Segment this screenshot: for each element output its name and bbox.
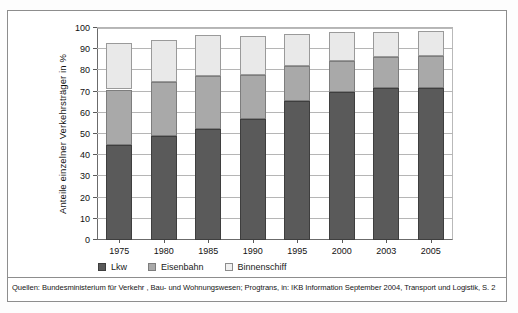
- y-tick-mark: [93, 91, 97, 92]
- plot-area: 0102030405060708090100 19751980198519901…: [97, 28, 453, 240]
- source-note: Quellen: Bundesministerium für Verkehr ,…: [12, 283, 495, 292]
- bar-segment-lkw: [240, 119, 266, 240]
- bar-segment-binnenschiff: [240, 36, 266, 74]
- bar-segment-binnenschiff: [284, 34, 310, 66]
- bar-group: 1995: [284, 28, 310, 240]
- bar-segment-binnenschiff: [418, 31, 444, 55]
- y-tick-mark: [93, 197, 97, 198]
- x-tick-mark: [164, 240, 165, 243]
- bar-segment-binnenschiff: [151, 40, 177, 82]
- y-tick-label: 90: [80, 44, 90, 54]
- bar-group: 1990: [240, 28, 266, 240]
- bar-segment-lkw: [329, 92, 355, 240]
- y-tick-mark: [93, 218, 97, 219]
- y-tick-mark: [93, 175, 97, 176]
- bar-segment-binnenschiff: [373, 32, 399, 56]
- bar-group: 1975: [106, 28, 132, 240]
- y-tick-mark: [93, 69, 97, 70]
- y-tick-mark: [93, 133, 97, 134]
- x-tick-label: 2003: [376, 246, 396, 256]
- bar-segment-lkw: [195, 129, 221, 240]
- source-divider: [8, 277, 506, 278]
- bar-segment-eisenbahn: [284, 66, 310, 101]
- y-tick-label: 40: [80, 150, 90, 160]
- y-tick-label: 80: [80, 65, 90, 75]
- x-tick-label: 2005: [421, 246, 441, 256]
- bar-segment-lkw: [373, 88, 399, 240]
- y-tick-label: 0: [85, 235, 90, 245]
- legend-item-lkw: Lkw: [98, 262, 127, 272]
- y-tick-mark: [93, 48, 97, 49]
- bar-segment-eisenbahn: [240, 75, 266, 120]
- x-tick-label: 1990: [243, 246, 263, 256]
- y-tick-label: 100: [75, 23, 90, 33]
- eisenbahn-swatch: [148, 263, 156, 271]
- lkw-swatch: [98, 263, 106, 271]
- bar-segment-binnenschiff: [195, 35, 221, 75]
- bar-segment-eisenbahn: [151, 82, 177, 136]
- bar-segment-lkw: [106, 145, 132, 240]
- x-tick-label: 1985: [198, 246, 218, 256]
- y-tick-mark: [93, 27, 97, 28]
- x-tick-mark: [297, 240, 298, 243]
- y-tick-mark: [93, 154, 97, 155]
- bar-segment-binnenschiff: [329, 32, 355, 61]
- bar-segment-lkw: [284, 101, 310, 240]
- bar-segment-eisenbahn: [329, 61, 355, 92]
- chart-legend: LkwEisenbahnBinnenschiff: [98, 262, 286, 272]
- x-tick-mark: [208, 240, 209, 243]
- y-tick-label: 20: [80, 193, 90, 203]
- legend-item-eisenbahn: Eisenbahn: [148, 262, 204, 272]
- binnenschiff-swatch: [225, 263, 233, 271]
- x-tick-mark: [253, 240, 254, 243]
- x-tick-label: 1995: [287, 246, 307, 256]
- x-tick-label: 1975: [109, 246, 129, 256]
- legend-label: Eisenbahn: [161, 262, 204, 272]
- bar-segment-eisenbahn: [418, 56, 444, 89]
- y-tick-mark: [93, 112, 97, 113]
- x-tick-mark: [386, 240, 387, 243]
- x-tick-label: 2000: [332, 246, 352, 256]
- y-tick-mark: [93, 239, 97, 240]
- bar-segment-eisenbahn: [373, 57, 399, 89]
- x-tick-mark: [431, 240, 432, 243]
- y-axis-title: Anteile einzelner Verkehrsträger in %: [56, 28, 70, 240]
- bar-group: 1980: [151, 28, 177, 240]
- figure-container: Anteile einzelner Verkehrsträger in % 01…: [0, 0, 518, 313]
- legend-label: Binnenschiff: [238, 262, 287, 272]
- y-tick-label: 50: [80, 129, 90, 139]
- y-tick-label: 30: [80, 171, 90, 181]
- x-tick-label: 1980: [154, 246, 174, 256]
- y-tick-label: 60: [80, 108, 90, 118]
- bar-segment-lkw: [151, 136, 177, 240]
- bar-group: 2003: [373, 28, 399, 240]
- x-tick-mark: [119, 240, 120, 243]
- bar-group: 2000: [329, 28, 355, 240]
- x-tick-mark: [342, 240, 343, 243]
- legend-item-binnenschiff: Binnenschiff: [225, 262, 287, 272]
- y-tick-label: 70: [80, 87, 90, 97]
- bar-segment-binnenschiff: [106, 43, 132, 90]
- bar-segment-eisenbahn: [106, 90, 132, 145]
- bar-segment-lkw: [418, 88, 444, 240]
- y-tick-label: 10: [80, 214, 90, 224]
- bar-segment-eisenbahn: [195, 76, 221, 129]
- bar-group: 2005: [418, 28, 444, 240]
- legend-label: Lkw: [111, 262, 127, 272]
- bar-group: 1985: [195, 28, 221, 240]
